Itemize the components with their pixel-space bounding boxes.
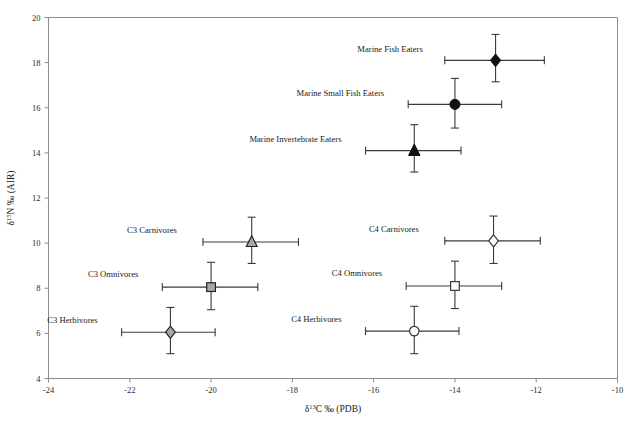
data-point-marker-circle[interactable] (450, 99, 460, 109)
plot-canvas: -24-22-20-18-16-14-12-10 468101214161820… (0, 0, 640, 432)
axes-group (49, 18, 618, 379)
data-point-marker-square[interactable] (451, 282, 460, 291)
scatter-plot-figure: -24-22-20-18-16-14-12-10 468101214161820… (0, 0, 640, 432)
data-point-group (406, 261, 502, 308)
data-point-label: Marine Invertebrate Eaters (249, 134, 342, 144)
data-series-group (122, 34, 545, 353)
x-tick-label: -18 (287, 385, 298, 395)
data-point-label: C4 Omnivores (332, 268, 383, 278)
y-tick-label: 8 (36, 283, 40, 293)
data-point-label: C4 Carnivores (369, 224, 420, 234)
y-tick-label: 6 (36, 328, 40, 338)
point-labels-group: Marine Fish EatersMarine Small Fish Eate… (47, 44, 423, 325)
y-axis-title: δ15N ‰ (AIR) (5, 171, 18, 226)
x-tick-label: -22 (124, 385, 135, 395)
data-point-label: Marine Small Fish Eaters (297, 88, 385, 98)
data-point-group (162, 262, 258, 309)
data-point-marker-diamond[interactable] (490, 54, 500, 67)
data-point-marker-square[interactable] (207, 283, 216, 292)
data-point-marker-triangle[interactable] (409, 144, 420, 155)
y-tick-label: 16 (32, 103, 41, 113)
data-point-group (366, 306, 459, 353)
data-point-group (445, 34, 545, 81)
x-axis-ticks: -24-22-20-18-16-14-12-10 (43, 379, 623, 395)
y-tick-label: 10 (32, 238, 41, 248)
y-tick-label: 18 (32, 58, 41, 68)
data-point-group (203, 217, 299, 263)
y-tick-label: 14 (32, 148, 41, 158)
x-tick-label: -20 (205, 385, 216, 395)
data-point-group (366, 125, 462, 172)
x-tick-label: -12 (531, 385, 542, 395)
x-tick-label: -16 (368, 385, 379, 395)
y-tick-label: 4 (36, 374, 41, 384)
data-point-label: Marine Fish Eaters (357, 44, 423, 54)
y-tick-label: 20 (32, 13, 41, 23)
data-point-label: C3 Omnivores (88, 269, 139, 279)
x-tick-label: -14 (449, 385, 461, 395)
data-point-label: C3 Carnivores (127, 225, 178, 235)
y-axis-ticks: 468101214161820 (32, 13, 49, 384)
plot-frame (49, 18, 618, 379)
data-point-marker-circle[interactable] (410, 326, 420, 336)
x-axis-title: δ13C ‰ (PDB) (305, 403, 361, 416)
data-point-marker-diamond[interactable] (489, 235, 499, 247)
data-point-group (122, 307, 215, 353)
x-tick-label: -10 (612, 385, 623, 395)
data-point-label: C4 Herbivores (291, 314, 342, 324)
data-point-group (445, 216, 541, 263)
data-point-marker-diamond[interactable] (166, 326, 176, 338)
data-point-label: C3 Herbivores (47, 315, 98, 325)
y-tick-label: 12 (32, 193, 41, 203)
data-point-group (408, 78, 501, 128)
data-point-marker-triangle[interactable] (246, 236, 257, 247)
x-tick-label: -24 (43, 385, 55, 395)
